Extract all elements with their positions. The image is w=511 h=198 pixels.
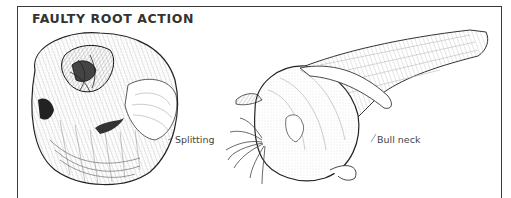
splitting-label: Splitting	[175, 134, 214, 145]
bull-neck-label: Bull neck	[377, 134, 420, 145]
illustrations	[0, 0, 511, 198]
bull-neck-onion-illustration	[226, 30, 488, 184]
bull-neck-leader-line	[371, 134, 376, 142]
split-onion-illustration	[32, 33, 178, 185]
